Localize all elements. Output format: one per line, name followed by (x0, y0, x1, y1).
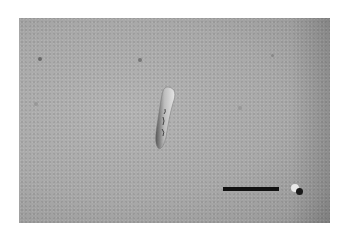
scale-bar (223, 187, 279, 191)
cell (156, 87, 174, 151)
debris-speck (238, 106, 242, 110)
image-grain (19, 18, 330, 223)
debris-speck (38, 57, 42, 61)
debris-particle-shadow (296, 188, 303, 195)
debris-speck (271, 54, 274, 57)
micrograph-image (19, 18, 330, 223)
debris-speck (138, 58, 142, 62)
debris-speck (34, 102, 38, 106)
